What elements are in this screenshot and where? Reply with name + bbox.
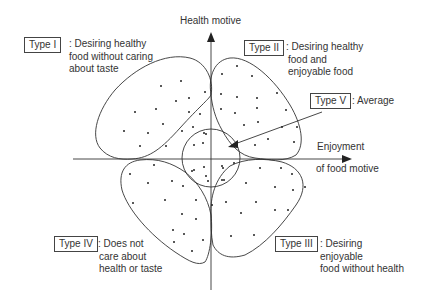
type-i-desc-2: food without caring — [69, 51, 153, 63]
diagram-canvas — [0, 0, 431, 306]
type-i-label: Type I — [24, 37, 61, 53]
type-iii-desc-1: : Desiring — [320, 238, 362, 250]
type-v-label: Type V — [310, 93, 351, 109]
type-iii-desc-2: enjoyable — [320, 251, 363, 263]
type-iv-desc-1: : Does not — [98, 238, 144, 250]
y-axis-arrow-icon — [207, 32, 215, 42]
type-ii-desc-3: enjoyable food — [288, 66, 353, 78]
type-v-pointer — [232, 112, 322, 145]
type-ii-desc-2: food and — [288, 54, 327, 66]
type-i-desc-1: : Desiring healthy — [69, 38, 146, 50]
y-axis-label: Health motive — [180, 15, 241, 27]
type-i-desc-3: about taste — [69, 63, 118, 75]
type-ii-label: Type II — [244, 40, 284, 56]
x-axis-arrow-icon — [342, 155, 352, 163]
type-iv-label: Type IV — [54, 236, 98, 252]
type-iii-label: Type III — [275, 236, 318, 252]
type-ii-desc-1: : Desiring healthy — [286, 41, 363, 53]
type-iii-desc-3: food without health — [320, 263, 404, 275]
type-iv-desc-2: care about — [99, 251, 146, 263]
type-v-desc: : Average — [352, 95, 394, 107]
x-axis-label-line1: Enjoyment — [317, 141, 364, 153]
data-points — [123, 65, 306, 252]
type-iv-desc-3: health or taste — [99, 263, 162, 275]
x-axis-label-line2: of food motive — [316, 163, 379, 175]
